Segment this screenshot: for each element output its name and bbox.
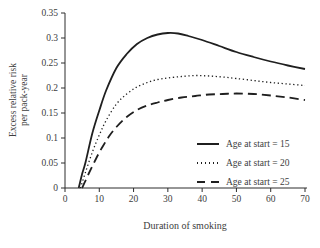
y-tick-label: 0.1 <box>46 133 58 143</box>
y-axis-title-line2: per pack-year <box>19 12 30 188</box>
y-tick-label: 0.3 <box>46 33 58 43</box>
legend-item-age-25: Age at start = 25 <box>197 172 289 191</box>
y-tick-label: 0.05 <box>41 158 58 168</box>
x-tick-label: 10 <box>95 194 105 204</box>
x-tick-label: 50 <box>232 194 242 204</box>
x-axis-title: Duration of smoking <box>65 220 305 231</box>
dashed-line-sample-icon <box>197 181 219 183</box>
legend-label: Age at start = 15 <box>226 139 289 149</box>
y-axis-title-line1: Excess relative risk <box>8 12 19 188</box>
excess-relative-risk-chart: 00.050.10.150.20.250.30.3501020304050607… <box>0 0 320 248</box>
legend-label: Age at start = 25 <box>226 177 289 187</box>
solid-line-sample-icon <box>197 143 219 145</box>
y-tick-label: 0.2 <box>46 83 58 93</box>
legend-label: Age at start = 20 <box>226 158 289 168</box>
x-tick-label: 40 <box>197 194 207 204</box>
x-tick-label: 60 <box>266 194 276 204</box>
y-axis-title: Excess relative risk per pack-year <box>8 12 32 188</box>
dotted-line-sample-icon <box>197 162 219 164</box>
legend: Age at start = 15 Age at start = 20 Age … <box>197 134 289 191</box>
plot-canvas: 00.050.10.150.20.250.30.3501020304050607… <box>0 0 320 248</box>
x-tick-label: 20 <box>129 194 139 204</box>
y-tick-label: 0.35 <box>41 8 58 18</box>
x-tick-label: 0 <box>63 194 68 204</box>
x-tick-label: 30 <box>163 194 173 204</box>
y-tick-label: 0 <box>53 183 58 193</box>
legend-item-age-15: Age at start = 15 <box>197 134 289 153</box>
y-tick-label: 0.15 <box>41 108 58 118</box>
y-tick-label: 0.25 <box>41 58 58 68</box>
x-tick-label: 70 <box>300 194 310 204</box>
legend-item-age-20: Age at start = 20 <box>197 153 289 172</box>
